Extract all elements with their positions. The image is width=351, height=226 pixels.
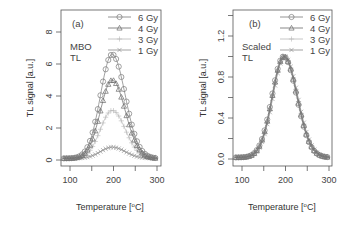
series-6-gy bbox=[61, 52, 158, 161]
svg-text:8: 8 bbox=[44, 29, 54, 34]
y-axis-b: 0.00.40.81.2 bbox=[216, 16, 233, 166]
annotation-line2-a: TL bbox=[70, 52, 81, 63]
panel-b: 0.00.40.81.2 100200300 (b) Scaled TL 6 G… bbox=[198, 10, 337, 212]
svg-text:300: 300 bbox=[149, 175, 164, 185]
legend-item-2: 3 Gy bbox=[310, 34, 330, 45]
series-3-gy bbox=[233, 54, 330, 160]
legend-item-3: 1 Gy bbox=[310, 45, 330, 56]
y-axis-title-b: TL signal [a.u.] bbox=[198, 59, 208, 118]
svg-text:2: 2 bbox=[44, 125, 54, 130]
y-axis-title-a: TL signal [a.u.] bbox=[25, 59, 35, 118]
panel-a: 02468 100200300 (a) MBO TL 6 Gy4 Gy3 Gy1… bbox=[25, 10, 165, 212]
legend-item-1: 4 Gy bbox=[310, 23, 330, 34]
series-6-gy bbox=[233, 54, 330, 160]
svg-text:100: 100 bbox=[234, 175, 249, 185]
legend-item-0: 6 Gy bbox=[310, 12, 330, 23]
panel-label-a: (a) bbox=[72, 18, 84, 29]
svg-text:0.0: 0.0 bbox=[216, 153, 226, 166]
svg-text:100: 100 bbox=[62, 175, 77, 185]
series-4-gy bbox=[61, 78, 158, 161]
svg-text:4: 4 bbox=[44, 93, 54, 98]
legend-item-2: 3 Gy bbox=[138, 34, 158, 45]
curves-b bbox=[233, 54, 330, 160]
legend-item-0: 6 Gy bbox=[138, 12, 158, 23]
series-4-gy bbox=[233, 54, 330, 159]
x-axis-b: 100200300 bbox=[234, 166, 336, 185]
svg-text:0.4: 0.4 bbox=[216, 112, 226, 125]
y-axis-a: 02468 bbox=[44, 29, 61, 162]
svg-text:0.8: 0.8 bbox=[216, 71, 226, 84]
svg-text:6: 6 bbox=[44, 61, 54, 66]
x-axis-title-a: Temperature [oC] bbox=[76, 202, 144, 212]
figure: 02468 100200300 (a) MBO TL 6 Gy4 Gy3 Gy1… bbox=[0, 0, 351, 226]
annotation-line1-b: Scaled bbox=[242, 41, 271, 52]
curves-a bbox=[61, 52, 158, 161]
svg-text:200: 200 bbox=[106, 175, 121, 185]
svg-text:300: 300 bbox=[321, 175, 336, 185]
annotation-line1-a: MBO bbox=[70, 41, 92, 52]
x-axis-a: 100200300 bbox=[62, 166, 164, 185]
legend-a: 6 Gy4 Gy3 Gy1 Gy bbox=[108, 12, 158, 56]
legend-b: 6 Gy4 Gy3 Gy1 Gy bbox=[280, 12, 330, 56]
svg-text:1.2: 1.2 bbox=[216, 30, 226, 43]
svg-text:0: 0 bbox=[44, 157, 54, 162]
svg-text:200: 200 bbox=[278, 175, 293, 185]
series-1-gy bbox=[234, 55, 330, 160]
x-axis-title-b: Temperature [oC] bbox=[248, 202, 316, 212]
annotation-line2-b: TL bbox=[242, 52, 253, 63]
legend-item-1: 4 Gy bbox=[138, 23, 158, 34]
panel-label-b: (b) bbox=[249, 18, 261, 29]
legend-item-3: 1 Gy bbox=[138, 45, 158, 56]
